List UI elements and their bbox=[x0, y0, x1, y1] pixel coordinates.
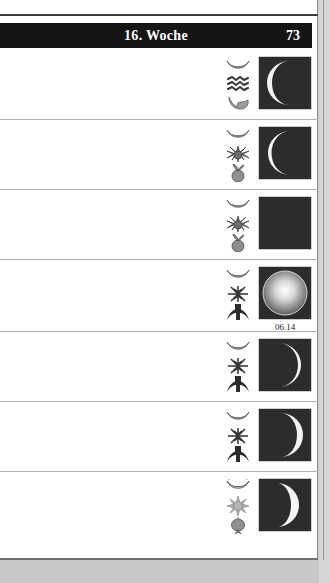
moon-phase-image bbox=[258, 338, 312, 392]
root-icon bbox=[226, 446, 250, 463]
table-row[interactable]: 06.14 bbox=[0, 260, 318, 332]
zodiac-pisces-star-icon bbox=[226, 145, 250, 163]
fruit-icon bbox=[227, 164, 249, 182]
crescent-moon-open-up-icon bbox=[225, 411, 251, 426]
table-row[interactable] bbox=[0, 190, 318, 260]
moon-phase-image bbox=[258, 478, 312, 532]
moon-phase-image bbox=[258, 266, 312, 320]
symbol-column bbox=[222, 475, 254, 539]
sun-burst-icon bbox=[227, 496, 249, 516]
root-icon bbox=[226, 304, 250, 321]
moon-phase-image bbox=[258, 56, 312, 110]
bottom-rule bbox=[0, 558, 318, 560]
calendar-page: 16. Woche 73 bbox=[0, 0, 318, 560]
zodiac-aries-star-icon bbox=[226, 427, 250, 445]
crescent-moon-open-up-icon bbox=[225, 269, 251, 284]
moon-phase-image bbox=[258, 408, 312, 462]
crescent-moon-open-up-icon bbox=[225, 341, 251, 356]
symbol-column bbox=[222, 53, 254, 117]
moon-phase-image bbox=[258, 126, 312, 180]
leaf-icon bbox=[226, 94, 250, 110]
full-moon-time: 06.14 bbox=[258, 322, 312, 332]
root-icon bbox=[226, 376, 250, 393]
symbol-column bbox=[222, 405, 254, 469]
page-gutter bbox=[319, 0, 330, 583]
top-rule bbox=[0, 14, 318, 16]
symbol-column bbox=[222, 193, 254, 257]
zodiac-aries-star-icon bbox=[226, 357, 250, 375]
crescent-moon-open-up-icon bbox=[225, 199, 251, 214]
moon-phase-image bbox=[258, 196, 312, 250]
page-title: 16. Woche bbox=[0, 28, 312, 44]
symbol-column bbox=[222, 335, 254, 399]
table-row[interactable] bbox=[0, 120, 318, 190]
flower-bulb-icon bbox=[227, 517, 249, 535]
crescent-moon-filled-icon bbox=[225, 479, 251, 495]
gutter-line bbox=[323, 0, 324, 560]
fruit-icon bbox=[227, 234, 249, 252]
table-row[interactable] bbox=[0, 332, 318, 402]
zodiac-aries-star-icon bbox=[226, 285, 250, 303]
zodiac-aquarius-icon bbox=[227, 76, 249, 93]
week-header-bar: 16. Woche 73 bbox=[0, 23, 312, 48]
crescent-moon-open-up-icon bbox=[225, 129, 251, 144]
crescent-moon-open-up-icon bbox=[225, 60, 251, 75]
page-number: 73 bbox=[286, 28, 300, 44]
table-row[interactable] bbox=[0, 402, 318, 472]
day-rows: 06.14 bbox=[0, 50, 318, 542]
table-row[interactable] bbox=[0, 472, 318, 542]
zodiac-pisces-star-icon bbox=[226, 215, 250, 233]
symbol-column bbox=[222, 123, 254, 187]
symbol-column bbox=[222, 263, 254, 327]
table-row[interactable] bbox=[0, 50, 318, 120]
